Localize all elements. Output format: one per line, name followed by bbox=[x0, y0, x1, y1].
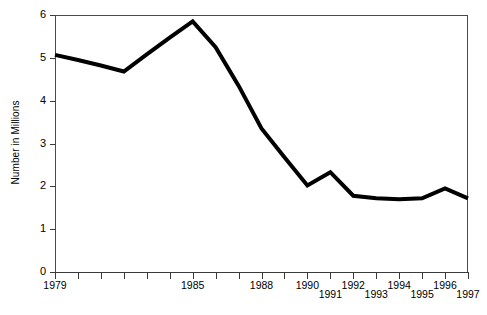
data-series-layer bbox=[0, 0, 487, 315]
data-series-line bbox=[55, 21, 468, 199]
line-chart: Number in Millions 0123456 1979198519881… bbox=[0, 0, 487, 315]
